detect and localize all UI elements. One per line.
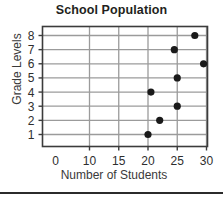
x-tick-label: 10 — [83, 154, 97, 168]
data-point — [200, 60, 207, 67]
data-point — [147, 88, 154, 95]
school-population-chart: School Population Grade Levels Number of… — [0, 0, 223, 188]
y-tick-label: 8 — [28, 29, 35, 43]
x-tick-label: 0 — [52, 154, 59, 168]
data-point — [144, 131, 151, 138]
data-point — [171, 46, 178, 53]
bottom-divider — [0, 192, 223, 194]
plot-border — [43, 27, 208, 147]
plot-frame — [43, 27, 208, 147]
data-point — [191, 32, 198, 39]
y-tick-label: 6 — [28, 57, 35, 71]
x-tick-label: 20 — [141, 154, 155, 168]
y-tick-label: 4 — [28, 86, 35, 100]
vertical-gridlines — [90, 27, 207, 147]
data-point — [174, 74, 181, 81]
plot-area: 12345678 01015202530 — [0, 0, 223, 188]
data-point — [174, 103, 181, 110]
x-tick-label: 25 — [171, 154, 185, 168]
y-tick-label: 7 — [28, 43, 35, 57]
y-tick-labels: 12345678 — [28, 29, 35, 142]
y-tick-label: 5 — [28, 71, 35, 85]
horizontal-gridlines — [43, 36, 208, 135]
y-tick-label: 2 — [28, 114, 35, 128]
data-point — [156, 117, 163, 124]
x-tick-label: 15 — [112, 154, 126, 168]
x-tick-label: 30 — [200, 154, 214, 168]
y-tick-label: 3 — [28, 100, 35, 114]
data-point-markers — [144, 32, 207, 138]
x-tick-labels: 01015202530 — [52, 154, 213, 168]
y-tick-label: 1 — [28, 128, 35, 142]
